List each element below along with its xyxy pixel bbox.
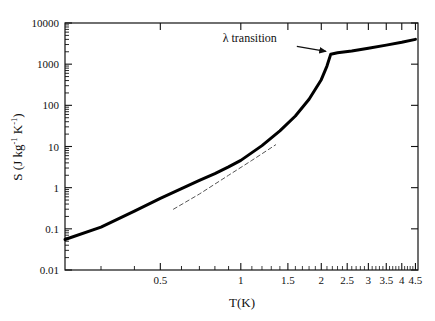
y-tick-label: 1 [54,182,60,194]
y-tick-label: 0.01 [40,264,59,276]
x-tick-label: 4.5 [409,274,423,286]
y-tick-label: 100 [43,99,60,111]
x-tick-label: 2.5 [340,274,354,286]
x-axis-label: T(K) [229,295,255,310]
x-tick-label: 3.5 [379,274,393,286]
x-tick-label: 1.5 [281,274,295,286]
annotation-label: λ transition [223,31,277,45]
y-tick-label: 10000 [32,17,60,29]
x-tick-label: 3 [366,274,372,286]
x-tick-label: 0.5 [153,274,167,286]
y-tick-label: 1000 [37,58,60,70]
y-tick-label: 0.1 [45,223,59,235]
chart-figure: 0.511.522.533.544.5 0.010.11101001000100… [0,0,435,321]
entropy-vs-temperature-chart: 0.511.522.533.544.5 0.010.11101001000100… [0,0,435,321]
y-tick-label: 10 [48,141,60,153]
x-tick-label: 2 [319,274,325,286]
x-tick-label: 4 [399,274,405,286]
x-tick-label: 1 [238,274,244,286]
